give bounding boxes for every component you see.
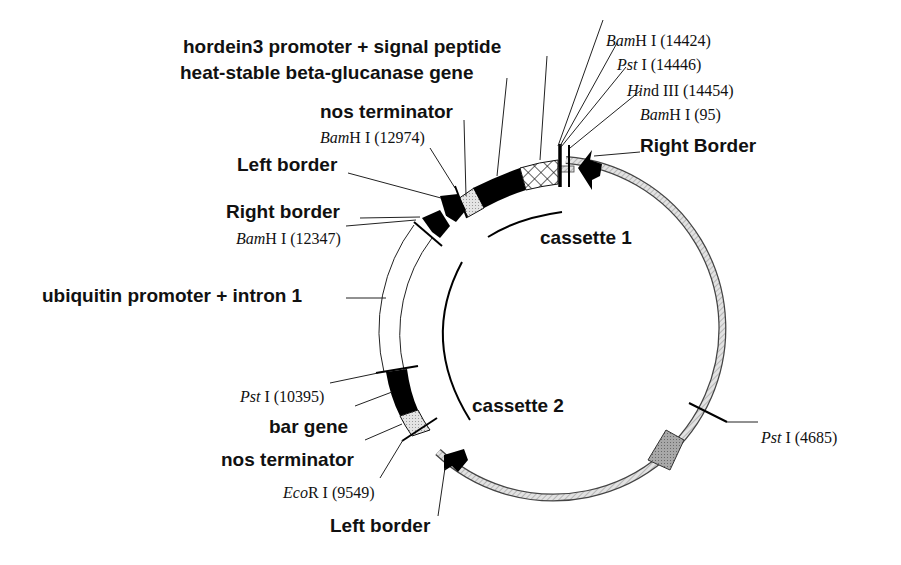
cassette1-blocks <box>458 144 602 217</box>
label-right-border-main: Right Border <box>640 135 757 156</box>
label-right-border-top: Right border <box>226 201 341 222</box>
label-cassette-1: cassette 1 <box>540 227 632 248</box>
label-nos-terminator-1: nos terminator <box>320 101 454 122</box>
site-label-psti-10395: Pst I (10395) <box>239 388 324 406</box>
border-pair-top <box>414 186 467 246</box>
label-nos-terminator-2: nos terminator <box>221 449 355 470</box>
site-label-bamhi-12974: BamH I (12974) <box>320 129 425 147</box>
hollow-ring-inner <box>400 238 432 370</box>
label-cassette-2: cassette 2 <box>472 395 564 416</box>
plasmid-map: hordein3 promoter + signal peptide heat-… <box>0 0 901 565</box>
site-label-ecori-9549: EcoR I (9549) <box>282 484 375 502</box>
site-label-psti-4685: Pst I (4685) <box>760 429 837 447</box>
site-label-psti-14446: Pst I (14446) <box>616 56 701 74</box>
site-label-bamhi-95: BamH I (95) <box>640 106 721 124</box>
cassette2-blocks <box>376 366 468 472</box>
label-left-border-top: Left border <box>237 154 338 175</box>
label-hordein3-promoter: hordein3 promoter + signal peptide <box>183 36 501 57</box>
hordein3-promoter-block <box>520 160 558 190</box>
cassette2-arc <box>443 262 470 420</box>
label-beta-glucanase: heat-stable beta-glucanase gene <box>180 62 474 83</box>
site-label-bamhi-12347: BamH I (12347) <box>236 230 341 248</box>
label-left-border-bottom: Left border <box>330 515 431 536</box>
site-label-bamhi-14424: BamH I (14424) <box>606 32 711 50</box>
site-label-hindiii-14454: Hind III (14454) <box>626 82 734 100</box>
beta-glucanase-block <box>473 168 526 208</box>
label-bar-gene: bar gene <box>269 416 348 437</box>
label-ubiquitin-promoter: ubiquitin promoter + intron 1 <box>42 285 303 306</box>
